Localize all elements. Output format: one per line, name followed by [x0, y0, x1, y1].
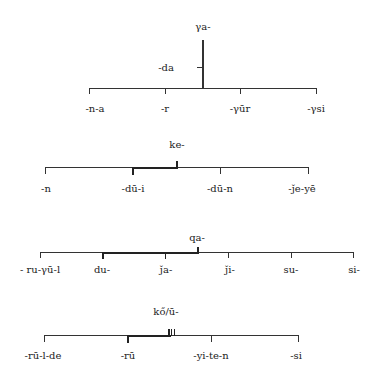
root-label-ko: kő/ū-	[153, 306, 178, 318]
bracket-left	[102, 252, 104, 259]
tick-label: -yi-te-n	[193, 350, 228, 362]
tick-label: -n-a	[85, 103, 104, 115]
tick	[220, 167, 221, 174]
tick-label: si-	[348, 264, 360, 276]
bracket-right	[168, 329, 170, 336]
tick	[89, 88, 90, 94]
branch-tick-da	[197, 67, 202, 68]
tick	[44, 335, 45, 342]
tick-label: du-	[94, 264, 110, 276]
tick	[228, 252, 229, 258]
bracket-right	[176, 161, 178, 169]
root-label-ya: γa-	[195, 21, 210, 33]
tick	[45, 167, 46, 174]
bracket-right-3	[174, 329, 175, 336]
bracket-left	[132, 167, 134, 175]
tick-label: su-	[284, 264, 299, 276]
tick	[165, 252, 166, 259]
tick-label: -n	[41, 183, 51, 195]
tick-label: ǰa-	[160, 264, 173, 276]
tick	[240, 88, 241, 94]
vertical-stem-ya	[202, 40, 204, 89]
tick-label: -si	[290, 350, 302, 362]
tick-label: -dū-n	[207, 183, 233, 195]
tick-label: -dū-i	[122, 183, 145, 195]
tick-label: -r	[161, 103, 169, 115]
tick-label: -ǰe-yē	[288, 183, 315, 195]
bracket-span	[102, 252, 199, 254]
tick-label: -γūr	[230, 103, 251, 115]
axis-line-ya	[89, 88, 317, 89]
bracket-left	[127, 335, 129, 343]
tick	[298, 335, 299, 342]
bracket-right	[197, 247, 199, 254]
bracket-span	[127, 335, 171, 337]
tick	[211, 335, 212, 342]
tick	[308, 167, 309, 174]
tick-label: -rū-l-de	[25, 350, 62, 362]
tick	[291, 252, 292, 258]
tick	[316, 88, 317, 94]
bracket-span	[132, 167, 178, 169]
bracket-right-2	[171, 329, 172, 336]
tick-label: -rū	[121, 350, 136, 362]
tick-label: -γsi	[307, 103, 325, 115]
tick	[165, 88, 166, 94]
tick	[40, 252, 41, 258]
tick-label: ǰi-	[225, 264, 235, 276]
root-label-qa: qa-	[189, 232, 205, 244]
tick-label: - ru-γū-l	[20, 264, 60, 276]
branch-label-da: -da	[158, 62, 174, 74]
root-label-ke: ke-	[169, 139, 184, 151]
tick	[353, 252, 354, 258]
